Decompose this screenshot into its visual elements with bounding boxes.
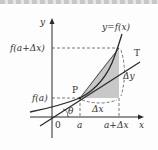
x-axis-label: x (139, 120, 144, 130)
dy-label: Δy (122, 71, 135, 81)
y-axis-arrow (50, 18, 55, 24)
x-axis-arrow (138, 115, 144, 120)
a-dx-label: a+Δx (104, 120, 128, 130)
diagram-svg: y x 0 y=f(x) T P f(a) f(a+Δx) a a+Δx Δx … (0, 0, 158, 150)
point-p (79, 97, 82, 100)
origin-label: 0 (55, 120, 61, 130)
y-axis-label: y (39, 17, 46, 27)
f-a-dx-label: f(a+Δx) (9, 43, 45, 53)
dx-label: Δx (91, 104, 104, 114)
a-label: a (77, 120, 82, 130)
theta-label: θ (68, 106, 74, 116)
point-p-label: P (72, 85, 78, 95)
curve-label: y=f(x) (101, 22, 131, 32)
f-a-label: f(a) (31, 93, 48, 103)
derivative-diagram: y x 0 y=f(x) T P f(a) f(a+Δx) a a+Δx Δx … (0, 0, 158, 150)
tangent-label: T (134, 48, 140, 58)
